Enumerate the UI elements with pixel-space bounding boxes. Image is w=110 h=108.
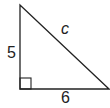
horizontal-leg-label: 6 [61,89,70,106]
right-angle-marker [20,78,31,89]
hypotenuse-label: c [61,20,69,37]
right-triangle [20,5,109,89]
vertical-leg-label: 5 [7,44,16,61]
triangle-diagram: 5 c 6 [0,0,110,108]
